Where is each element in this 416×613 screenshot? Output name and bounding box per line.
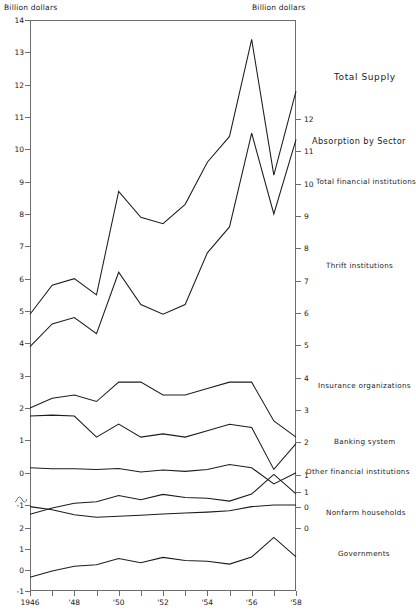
y-left-label-10: 10 (2, 145, 24, 154)
x-label-'52: '52 (143, 598, 183, 607)
y-left-label-0: 0 (2, 469, 24, 478)
series-label-thrift-institutions: Thrift institutions (326, 261, 393, 270)
tick-mark (185, 591, 186, 596)
tick-mark (296, 528, 301, 529)
tick-mark (25, 52, 30, 53)
tick-mark (274, 591, 275, 596)
y-right-label-8: 8 (304, 244, 309, 253)
y-right-label-4: 4 (304, 374, 309, 383)
tick-mark (30, 591, 31, 596)
y-right-label-7: 7 (304, 277, 309, 286)
tick-mark (296, 216, 301, 217)
tick-mark (25, 528, 30, 529)
series-label-other-financial-institutions: Other financial institutions (306, 467, 410, 476)
x-label-'56: '56 (232, 598, 272, 607)
tick-mark (296, 442, 301, 443)
y-right-label-5: 5 (304, 341, 309, 350)
tick-mark (119, 591, 120, 596)
series-line-thrift-institutions (30, 382, 296, 437)
tick-mark (25, 149, 30, 150)
y-left-label-14: 14 (2, 16, 24, 25)
y-right-lower-label-1: 1 (304, 488, 309, 497)
tick-mark (25, 549, 30, 550)
y-right-label-9: 9 (304, 212, 309, 221)
x-label-'50: '50 (99, 598, 139, 607)
series-line-nonfarm-households (30, 474, 296, 514)
y-left-label-9: 9 (2, 178, 24, 187)
tick-mark (296, 281, 301, 282)
tick-mark (296, 378, 301, 379)
y-left-lower-label-0: 0 (2, 566, 24, 575)
series-curves (30, 20, 296, 591)
y-left-label-12: 12 (2, 81, 24, 90)
tick-mark (52, 591, 53, 596)
tick-mark (25, 182, 30, 183)
tick-mark (252, 591, 253, 596)
tick-mark (97, 591, 98, 596)
axis-break-icon (14, 493, 28, 506)
series-label-governments: Governments (338, 549, 390, 558)
y-right-label-12: 12 (304, 115, 314, 124)
tick-mark (296, 492, 301, 493)
tick-mark (296, 475, 301, 476)
series-line-other-financial-institutions (30, 505, 296, 517)
y-left-label-7: 7 (2, 242, 24, 251)
y-right-label-0: 0 (304, 503, 309, 512)
x-label-'54: '54 (187, 598, 227, 607)
y-right-label-2: 2 (304, 438, 309, 447)
y-right-label-3: 3 (304, 406, 309, 415)
y-left-label-1: 1 (2, 436, 24, 445)
tick-mark (25, 408, 30, 409)
series-label-insurance-organizations: Insurance organizations (318, 381, 411, 390)
tick-mark (25, 20, 30, 21)
y-left-label-3: 3 (2, 372, 24, 381)
tick-mark (25, 440, 30, 441)
tick-mark (207, 591, 208, 596)
tick-mark (296, 591, 297, 596)
series-label-total-supply: Total Supply (334, 72, 396, 82)
x-label-'48: '48 (54, 598, 94, 607)
series-line-absorption-by-sector-total-financial-institutions (30, 133, 296, 346)
tick-mark (296, 410, 301, 411)
tick-mark (25, 279, 30, 280)
x-label-1946: 1946 (10, 598, 50, 607)
tick-mark (163, 591, 164, 596)
tick-mark (25, 214, 30, 215)
y-left-label-5: 5 (2, 307, 24, 316)
tick-mark (230, 591, 231, 596)
y-right-label-10: 10 (304, 180, 314, 189)
y-left-lower-label-2: 2 (2, 524, 24, 533)
series-label-total-financial-institutions: Total financial institutions (316, 177, 416, 186)
series-label-banking-system: Banking system (334, 437, 396, 446)
tick-mark (296, 507, 301, 508)
tick-mark (25, 376, 30, 377)
tick-mark (141, 591, 142, 596)
y-left-label-2: 2 (2, 404, 24, 413)
y-left-label-8: 8 (2, 210, 24, 219)
tick-mark (74, 591, 75, 596)
series-line-governments (30, 537, 296, 577)
tick-mark (25, 570, 30, 571)
tick-mark (25, 473, 30, 474)
tick-mark (25, 85, 30, 86)
tick-mark (296, 345, 301, 346)
y-right-lower-label-0: 0 (304, 524, 309, 533)
series-label-absorption-by-sector: Absorption by Sector (312, 136, 406, 146)
plot-area (30, 20, 296, 591)
series-line-banking-system (30, 465, 296, 484)
series-line-total-supply (30, 39, 296, 314)
y-left-label-4: 4 (2, 339, 24, 348)
y-right-label-6: 6 (304, 309, 309, 318)
series-label-nonfarm-households: Nonfarm households (326, 508, 406, 517)
y-left-label-6: 6 (2, 275, 24, 284)
right-axis-unit-label: Billion dollars (252, 3, 305, 12)
tick-mark (25, 246, 30, 247)
tick-mark (25, 117, 30, 118)
tick-mark (25, 343, 30, 344)
tick-mark (296, 151, 301, 152)
y-left-label-13: 13 (2, 48, 24, 57)
y-left-lower-label--1: -1 (2, 587, 24, 596)
tick-mark (296, 313, 301, 314)
left-axis-unit-label: Billion dollars (4, 3, 57, 12)
